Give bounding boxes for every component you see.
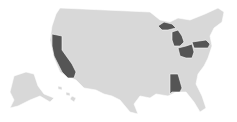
- us-map: [0, 0, 237, 122]
- hawaii: [58, 86, 76, 102]
- alaska: [10, 72, 54, 108]
